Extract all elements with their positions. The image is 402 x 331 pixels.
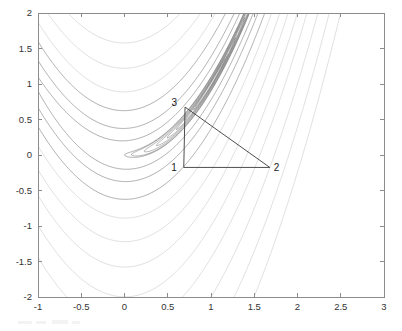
x-tick-label: 0	[122, 301, 127, 312]
x-tick-label: 2.5	[334, 301, 347, 312]
x-tick-label: 0.5	[161, 301, 174, 312]
simplex-vertex-label: 3	[171, 97, 177, 108]
simplex-vertex-label: 1	[171, 162, 177, 173]
y-tick-label: -0.5	[16, 185, 32, 196]
simplex-vertex-label: 2	[274, 162, 280, 173]
y-tick-label: -1	[24, 220, 32, 231]
y-tick-label: 2	[27, 7, 32, 18]
y-tick-label: 1	[27, 78, 32, 89]
x-tick-label: 1.5	[248, 301, 261, 312]
y-tick-label: 1.5	[19, 43, 32, 54]
x-tick-label: 2	[295, 301, 300, 312]
y-tick-label: -2	[24, 291, 32, 302]
x-tick-label: -1	[34, 301, 42, 312]
figure-background	[0, 0, 402, 331]
x-tick-label: -0.5	[73, 301, 89, 312]
plot-canvas: -1-0.500.511.522.53-2-1.5-1-0.500.511.52…	[0, 0, 402, 331]
contour-figure: -1-0.500.511.522.53-2-1.5-1-0.500.511.52…	[0, 0, 402, 331]
y-tick-label: 0.5	[19, 114, 32, 125]
x-tick-label: 3	[381, 301, 386, 312]
y-tick-label: 0	[27, 149, 32, 160]
y-tick-label: -1.5	[16, 256, 32, 267]
x-tick-label: 1	[208, 301, 213, 312]
